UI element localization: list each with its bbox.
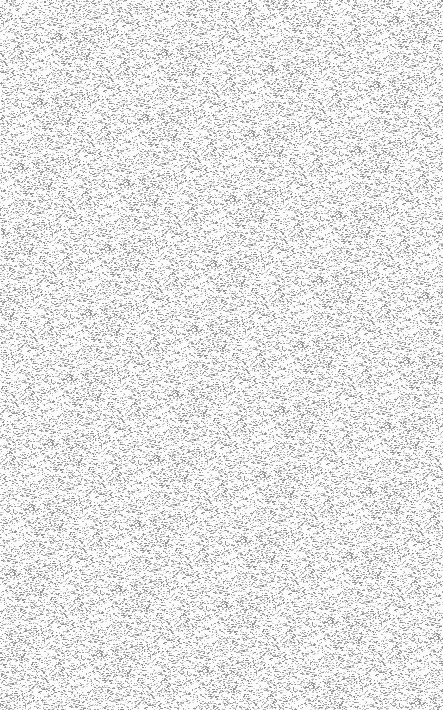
noise-texture-surface xyxy=(0,0,443,710)
speckle-noise-layer xyxy=(0,0,443,710)
